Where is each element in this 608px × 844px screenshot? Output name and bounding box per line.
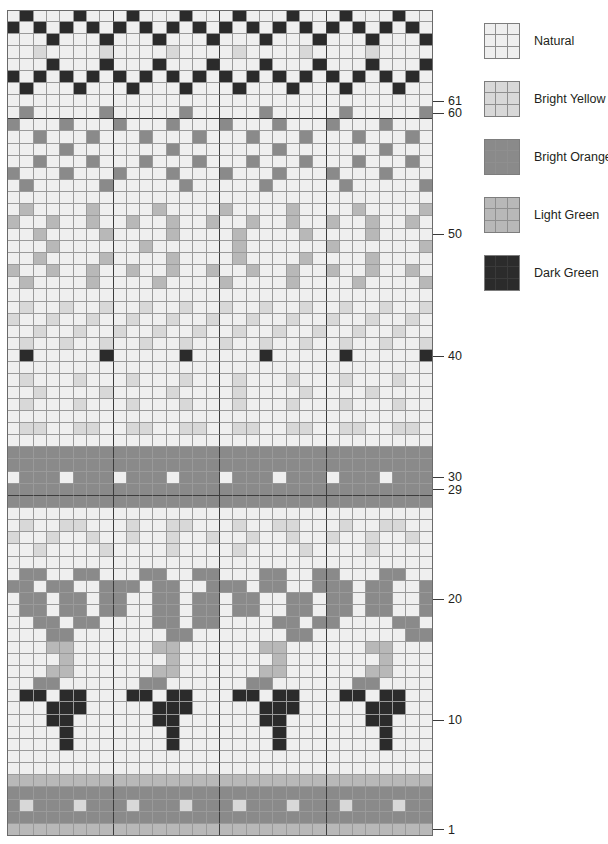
chart-cell[interactable] xyxy=(220,508,233,520)
chart-cell[interactable] xyxy=(114,95,127,107)
chart-cell[interactable] xyxy=(327,727,340,739)
chart-cell[interactable] xyxy=(300,678,313,690)
chart-cell[interactable] xyxy=(273,739,286,751)
chart-cell[interactable] xyxy=(114,508,127,520)
chart-cell[interactable] xyxy=(167,119,180,131)
chart-cell[interactable] xyxy=(140,59,153,71)
chart-cell[interactable] xyxy=(300,180,313,192)
chart-cell[interactable] xyxy=(74,71,87,83)
chart-cell[interactable] xyxy=(74,629,87,641)
chart-cell[interactable] xyxy=(153,350,166,362)
chart-cell[interactable] xyxy=(193,508,206,520)
chart-cell[interactable] xyxy=(167,787,180,799)
chart-cell[interactable] xyxy=(300,229,313,241)
chart-cell[interactable] xyxy=(233,131,246,143)
chart-cell[interactable] xyxy=(247,447,260,459)
chart-cell[interactable] xyxy=(380,751,393,763)
chart-cell[interactable] xyxy=(406,374,419,386)
chart-cell[interactable] xyxy=(20,544,33,556)
chart-cell[interactable] xyxy=(47,496,60,508)
chart-cell[interactable] xyxy=(114,180,127,192)
chart-cell[interactable] xyxy=(287,727,300,739)
chart-cell[interactable] xyxy=(207,204,220,216)
chart-cell[interactable] xyxy=(100,119,113,131)
chart-cell[interactable] xyxy=(393,289,406,301)
chart-cell[interactable] xyxy=(140,751,153,763)
chart-cell[interactable] xyxy=(20,520,33,532)
chart-cell[interactable] xyxy=(87,95,100,107)
chart-cell[interactable] xyxy=(127,666,140,678)
chart-cell[interactable] xyxy=(60,678,73,690)
chart-cell[interactable] xyxy=(260,119,273,131)
chart-cell[interactable] xyxy=(74,775,87,787)
chart-cell[interactable] xyxy=(406,350,419,362)
chart-cell[interactable] xyxy=(220,95,233,107)
chart-cell[interactable] xyxy=(153,690,166,702)
chart-cell[interactable] xyxy=(47,362,60,374)
chart-cell[interactable] xyxy=(47,617,60,629)
chart-cell[interactable] xyxy=(313,95,326,107)
chart-cell[interactable] xyxy=(313,399,326,411)
chart-cell[interactable] xyxy=(220,727,233,739)
chart-cell[interactable] xyxy=(74,532,87,544)
chart-cell[interactable] xyxy=(393,690,406,702)
chart-cell[interactable] xyxy=(140,387,153,399)
chart-cell[interactable] xyxy=(353,824,366,836)
chart-cell[interactable] xyxy=(327,666,340,678)
chart-cell[interactable] xyxy=(327,629,340,641)
chart-cell[interactable] xyxy=(393,46,406,58)
chart-cell[interactable] xyxy=(420,642,433,654)
chart-cell[interactable] xyxy=(287,192,300,204)
chart-cell[interactable] xyxy=(366,605,379,617)
chart-cell[interactable] xyxy=(114,472,127,484)
chart-cell[interactable] xyxy=(167,715,180,727)
chart-cell[interactable] xyxy=(247,387,260,399)
chart-cell[interactable] xyxy=(127,374,140,386)
chart-cell[interactable] xyxy=(100,423,113,435)
chart-cell[interactable] xyxy=(87,59,100,71)
chart-cell[interactable] xyxy=(327,532,340,544)
chart-cell[interactable] xyxy=(287,131,300,143)
chart-cell[interactable] xyxy=(380,83,393,95)
chart-cell[interactable] xyxy=(327,824,340,836)
chart-cell[interactable] xyxy=(167,362,180,374)
chart-cell[interactable] xyxy=(47,241,60,253)
chart-cell[interactable] xyxy=(47,253,60,265)
chart-cell[interactable] xyxy=(353,34,366,46)
chart-cell[interactable] xyxy=(74,678,87,690)
chart-cell[interactable] xyxy=(180,678,193,690)
chart-cell[interactable] xyxy=(20,314,33,326)
chart-cell[interactable] xyxy=(34,362,47,374)
chart-cell[interactable] xyxy=(20,362,33,374)
chart-cell[interactable] xyxy=(420,411,433,423)
chart-cell[interactable] xyxy=(100,326,113,338)
chart-cell[interactable] xyxy=(34,569,47,581)
chart-cell[interactable] xyxy=(153,727,166,739)
chart-cell[interactable] xyxy=(353,459,366,471)
chart-cell[interactable] xyxy=(20,22,33,34)
chart-cell[interactable] xyxy=(87,435,100,447)
chart-cell[interactable] xyxy=(260,338,273,350)
chart-cell[interactable] xyxy=(167,508,180,520)
chart-cell[interactable] xyxy=(366,229,379,241)
chart-cell[interactable] xyxy=(47,119,60,131)
chart-cell[interactable] xyxy=(353,229,366,241)
chart-cell[interactable] xyxy=(366,775,379,787)
chart-cell[interactable] xyxy=(393,83,406,95)
chart-cell[interactable] xyxy=(153,302,166,314)
chart-cell[interactable] xyxy=(300,95,313,107)
chart-cell[interactable] xyxy=(60,715,73,727)
chart-cell[interactable] xyxy=(406,569,419,581)
chart-cell[interactable] xyxy=(47,642,60,654)
chart-cell[interactable] xyxy=(34,144,47,156)
chart-cell[interactable] xyxy=(353,593,366,605)
chart-cell[interactable] xyxy=(34,350,47,362)
chart-cell[interactable] xyxy=(127,423,140,435)
chart-cell[interactable] xyxy=(193,362,206,374)
chart-cell[interactable] xyxy=(140,702,153,714)
chart-cell[interactable] xyxy=(273,314,286,326)
chart-cell[interactable] xyxy=(220,654,233,666)
chart-cell[interactable] xyxy=(260,459,273,471)
chart-cell[interactable] xyxy=(420,326,433,338)
chart-cell[interactable] xyxy=(406,326,419,338)
